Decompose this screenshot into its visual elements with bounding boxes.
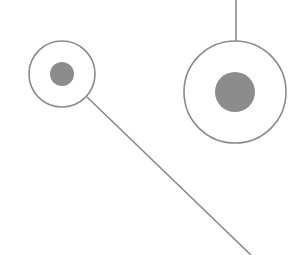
small-node-core (50, 62, 74, 86)
large-node-core (215, 72, 255, 112)
diagram-canvas (0, 0, 303, 255)
small-node (29, 41, 95, 107)
large-node (184, 41, 286, 143)
